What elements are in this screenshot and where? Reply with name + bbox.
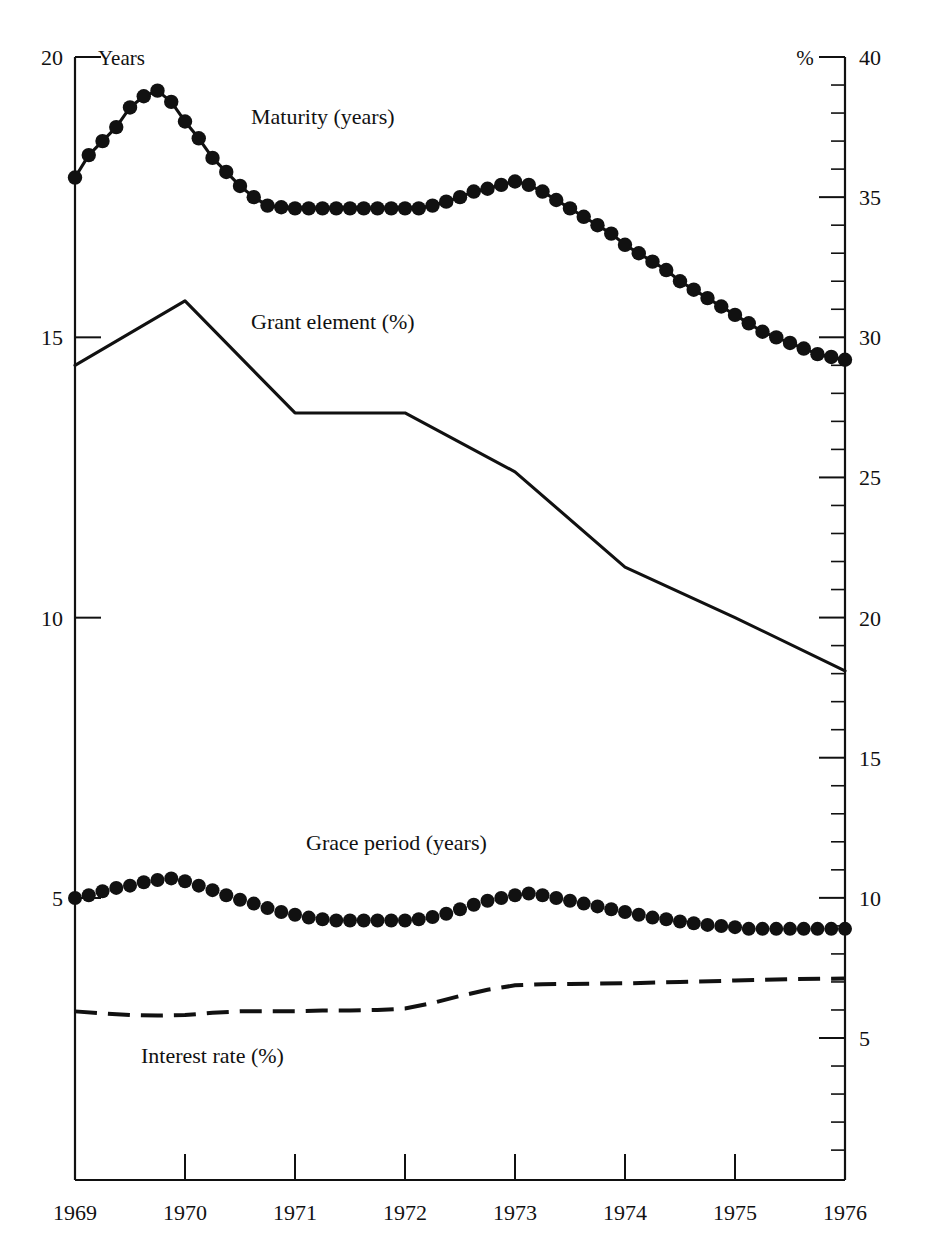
maturity-marker bbox=[728, 308, 742, 322]
grace-period-marker bbox=[742, 922, 756, 936]
right-axis-unit-label: % bbox=[796, 46, 814, 70]
x-tick-label-1974: 1974 bbox=[603, 1200, 647, 1225]
grace-period-marker bbox=[164, 871, 178, 885]
maturity-marker bbox=[810, 347, 824, 361]
maturity-marker bbox=[425, 198, 439, 212]
right-tick-label-5: 5 bbox=[859, 1026, 870, 1051]
grace-period-marker bbox=[384, 913, 398, 927]
maturity-marker bbox=[783, 336, 797, 350]
grace-period-marker bbox=[233, 893, 247, 907]
grace-period-marker bbox=[192, 879, 206, 893]
grace-period-marker bbox=[536, 888, 550, 902]
grace-period-marker bbox=[591, 899, 605, 913]
grace-period-marker bbox=[549, 891, 563, 905]
grace-period-marker bbox=[412, 912, 426, 926]
grace-period-marker bbox=[673, 915, 687, 929]
grace-period-marker bbox=[426, 910, 440, 924]
grace-period-marker bbox=[453, 902, 467, 916]
grace-period-marker bbox=[288, 908, 302, 922]
grace-period-marker bbox=[824, 922, 838, 936]
right-tick-label-10: 10 bbox=[859, 886, 881, 911]
maturity-marker bbox=[645, 254, 659, 268]
grace-period-marker bbox=[206, 883, 220, 897]
maturity-marker bbox=[192, 131, 206, 145]
maturity-marker bbox=[508, 174, 522, 188]
grace-period-marker bbox=[467, 898, 481, 912]
grace-period-marker bbox=[522, 887, 536, 901]
grace-period-marker bbox=[481, 894, 495, 908]
maturity-marker bbox=[700, 291, 714, 305]
maturity-marker bbox=[398, 201, 412, 215]
lending-terms-line-chart: Years % 2015105 510152025303540 19691970… bbox=[0, 0, 926, 1257]
maturity-marker bbox=[95, 134, 109, 148]
grace-period-marker bbox=[494, 891, 508, 905]
maturity-marker bbox=[219, 165, 233, 179]
left-tick-label-10: 10 bbox=[41, 606, 63, 631]
maturity-marker bbox=[673, 274, 687, 288]
chart-background bbox=[0, 0, 926, 1257]
grace-period-marker bbox=[261, 901, 275, 915]
maturity-marker bbox=[632, 246, 646, 260]
maturity-marker bbox=[288, 201, 302, 215]
maturity-marker bbox=[439, 194, 453, 208]
grace-period-marker bbox=[357, 913, 371, 927]
maturity-marker bbox=[260, 198, 274, 212]
grace-period-marker bbox=[109, 881, 123, 895]
maturity-marker bbox=[687, 282, 701, 296]
chart-figure: Years % 2015105 510152025303540 19691970… bbox=[0, 0, 926, 1257]
grace-period-marker bbox=[137, 875, 151, 889]
grace-period-marker bbox=[398, 913, 412, 927]
maturity-marker bbox=[742, 316, 756, 330]
grace-period-marker bbox=[632, 908, 646, 922]
grace-period-marker bbox=[714, 919, 728, 933]
maturity-marker bbox=[577, 210, 591, 224]
grace-period-marker bbox=[797, 922, 811, 936]
maturity-marker bbox=[412, 201, 426, 215]
left-tick-label-5: 5 bbox=[52, 886, 63, 911]
grace-period-marker bbox=[811, 922, 825, 936]
maturity-marker bbox=[838, 353, 852, 367]
grace-period-marker bbox=[439, 907, 453, 921]
maturity-marker bbox=[109, 120, 123, 134]
maturity-marker bbox=[522, 178, 536, 192]
grace-period-marker bbox=[701, 918, 715, 932]
x-tick-label-1975: 1975 bbox=[713, 1200, 757, 1225]
maturity-marker bbox=[535, 184, 549, 198]
maturity-marker bbox=[164, 95, 178, 109]
maturity-marker bbox=[68, 170, 82, 184]
grace-period-marker bbox=[96, 884, 110, 898]
x-tick-label-1970: 1970 bbox=[163, 1200, 207, 1225]
annotation-label: Interest rate (%) bbox=[141, 1043, 284, 1068]
grace-period-marker bbox=[508, 888, 522, 902]
maturity-marker bbox=[233, 179, 247, 193]
maturity-marker bbox=[563, 201, 577, 215]
grace-period-marker bbox=[247, 897, 261, 911]
maturity-marker bbox=[755, 325, 769, 339]
grace-period-marker bbox=[604, 902, 618, 916]
grace-period-marker bbox=[371, 913, 385, 927]
x-tick-label-1973: 1973 bbox=[493, 1200, 537, 1225]
grace-period-marker bbox=[219, 888, 233, 902]
left-tick-label-20: 20 bbox=[41, 45, 63, 70]
maturity-marker bbox=[357, 201, 371, 215]
x-tick-label-1972: 1972 bbox=[383, 1200, 427, 1225]
grace-period-marker bbox=[769, 922, 783, 936]
maturity-marker bbox=[659, 263, 673, 277]
grace-period-marker bbox=[68, 891, 82, 905]
grace-period-marker bbox=[618, 905, 632, 919]
grace-period-marker bbox=[151, 873, 165, 887]
maturity-marker bbox=[384, 201, 398, 215]
grace-period-marker bbox=[123, 879, 137, 893]
x-tick-label-1971: 1971 bbox=[273, 1200, 317, 1225]
right-tick-label-35: 35 bbox=[859, 185, 881, 210]
grace-period-marker bbox=[646, 911, 660, 925]
maturity-marker bbox=[467, 184, 481, 198]
grace-period-marker bbox=[274, 905, 288, 919]
grace-period-marker bbox=[838, 922, 852, 936]
maturity-marker bbox=[797, 341, 811, 355]
grace-period-marker bbox=[687, 916, 701, 930]
maturity-marker bbox=[824, 350, 838, 364]
maturity-marker bbox=[494, 178, 508, 192]
grace-period-marker bbox=[302, 911, 316, 925]
maturity-marker bbox=[302, 201, 316, 215]
